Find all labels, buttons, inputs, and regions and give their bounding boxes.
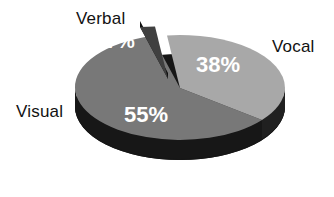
pie-chart-graphic — [0, 0, 334, 197]
slice-value-label-verbal: 7% — [106, 31, 135, 51]
slice-value-label-vocal: 38% — [196, 54, 240, 76]
slice-value-label-visual: 55% — [124, 104, 168, 126]
slice-category-label-vocal: Vocal — [272, 38, 315, 55]
pie-chart: Verbal Vocal Visual 7% 38% 55% — [0, 0, 334, 197]
slice-category-label-visual: Visual — [16, 103, 63, 120]
slice-category-label-verbal: Verbal — [76, 10, 125, 27]
